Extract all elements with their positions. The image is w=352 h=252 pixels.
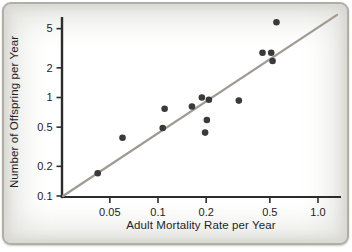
data-point	[204, 117, 211, 124]
y-tick-label: 0.5	[37, 121, 52, 133]
y-tick-label: 2	[46, 62, 52, 74]
x-axis-title: Adult Mortality Rate per Year	[126, 219, 275, 231]
x-tick-label: 0.05	[99, 206, 120, 218]
data-point	[236, 97, 243, 104]
x-tick-label: 0.1	[150, 206, 165, 218]
data-point	[199, 94, 206, 101]
data-point	[161, 105, 168, 112]
y-tick-label: 0.2	[37, 160, 52, 172]
y-axis-title: Number of Offspring per Year	[8, 36, 20, 188]
data-point	[259, 49, 266, 56]
scatter-chart: 0.050.10.20.51.05210.50.20.1	[0, 0, 352, 252]
x-tick-label: 1.0	[310, 206, 325, 218]
data-point	[159, 125, 166, 132]
y-tick-label: 1	[46, 91, 52, 103]
data-point	[189, 103, 196, 110]
data-point	[206, 96, 213, 103]
x-tick-label: 0.2	[199, 206, 214, 218]
trend-line	[63, 15, 337, 196]
x-tick-label: 0.5	[262, 206, 277, 218]
data-point	[94, 170, 101, 177]
data-point	[273, 19, 280, 26]
data-point	[119, 134, 126, 141]
y-tick-label: 0.1	[37, 190, 52, 202]
data-point	[202, 129, 209, 136]
data-point	[268, 49, 275, 56]
y-tick-label: 5	[46, 22, 52, 34]
scatter-plot-figure: 0.050.10.20.51.05210.50.20.1 Adult Morta…	[0, 0, 352, 252]
data-point	[269, 58, 276, 65]
